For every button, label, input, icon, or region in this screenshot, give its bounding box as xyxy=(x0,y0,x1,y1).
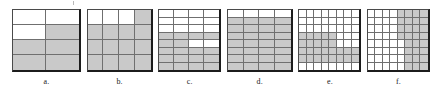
grid-cell xyxy=(299,33,307,41)
grid-cell xyxy=(103,10,119,25)
grid-cell xyxy=(368,25,376,33)
grid-cell xyxy=(174,18,189,26)
grid-cell xyxy=(299,55,307,63)
grid-box-a xyxy=(12,9,81,72)
grid-cell xyxy=(174,40,189,48)
grid-cell xyxy=(420,10,428,18)
grid-cell xyxy=(314,25,322,33)
grid-cell xyxy=(344,18,352,26)
grid-cell xyxy=(344,33,352,41)
grid-cell xyxy=(189,33,204,41)
grid-label-e: e. xyxy=(327,77,333,87)
grid-cell xyxy=(398,48,406,56)
grid-cell xyxy=(352,48,360,56)
grid-cell xyxy=(103,40,119,55)
grid-cell xyxy=(314,55,322,63)
grid-cell xyxy=(383,10,391,18)
grid-cell xyxy=(420,40,428,48)
grid-cell xyxy=(189,18,204,26)
grid-cell xyxy=(344,25,352,33)
grid-cell xyxy=(307,25,315,33)
grid-cell xyxy=(322,18,330,26)
grid-cell xyxy=(307,10,315,18)
grid-cell xyxy=(398,10,406,18)
grid-cell xyxy=(204,25,219,33)
grid-cell xyxy=(189,55,204,63)
grid-cell xyxy=(375,40,383,48)
grid-cells-e xyxy=(299,10,359,70)
grid-cell xyxy=(259,48,275,56)
grid-label-c: c. xyxy=(187,77,193,87)
grid-cells-a xyxy=(13,10,79,70)
grid-cell xyxy=(204,18,219,26)
grid-cell xyxy=(299,10,307,18)
grid-cell xyxy=(259,18,275,26)
grid-cell xyxy=(189,63,204,71)
grid-model-f: f. xyxy=(367,9,430,87)
grid-cell xyxy=(228,40,244,48)
grid-cell xyxy=(244,55,260,63)
grid-cell xyxy=(375,10,383,18)
grid-model-e: e. xyxy=(298,9,361,87)
grid-cell xyxy=(299,40,307,48)
grid-cell xyxy=(368,63,376,71)
grid-cell xyxy=(405,40,413,48)
grid-cell xyxy=(375,55,383,63)
grid-cell xyxy=(204,10,219,18)
grid-cell xyxy=(413,18,421,26)
grid-cell xyxy=(398,33,406,41)
grid-label-f: f. xyxy=(396,77,401,87)
grid-cells-d xyxy=(228,10,291,70)
grid-cell xyxy=(103,25,119,40)
grid-cell xyxy=(337,63,345,71)
grid-cell xyxy=(228,55,244,63)
grid-cell xyxy=(275,63,291,71)
grid-cell xyxy=(420,18,428,26)
grid-cell xyxy=(46,40,79,55)
grid-cell xyxy=(398,55,406,63)
grid-cell xyxy=(420,55,428,63)
grid-cell xyxy=(119,10,135,25)
grid-cell xyxy=(159,40,174,48)
grid-cell xyxy=(244,63,260,71)
grid-cell xyxy=(299,25,307,33)
grid-cell xyxy=(383,48,391,56)
grid-cell xyxy=(228,63,244,71)
grid-cell xyxy=(352,18,360,26)
grid-cell xyxy=(413,33,421,41)
grid-cell xyxy=(135,40,151,55)
grid-cell xyxy=(119,25,135,40)
grid-cell xyxy=(159,10,174,18)
grid-cell xyxy=(337,33,345,41)
grid-box-d xyxy=(227,9,293,72)
grid-cell xyxy=(375,33,383,41)
grid-cell xyxy=(420,33,428,41)
grid-cell xyxy=(413,10,421,18)
grid-cell xyxy=(307,40,315,48)
grid-cell xyxy=(375,18,383,26)
grid-cell xyxy=(13,40,46,55)
grid-cell xyxy=(344,63,352,71)
grid-cell xyxy=(159,25,174,33)
grid-cell xyxy=(368,18,376,26)
grid-cell xyxy=(390,33,398,41)
grid-box-f xyxy=(367,9,430,72)
grid-cell xyxy=(375,25,383,33)
grid-box-b xyxy=(87,9,153,72)
grid-cell xyxy=(314,10,322,18)
grid-cell xyxy=(344,48,352,56)
grid-cell xyxy=(174,48,189,56)
grid-cell xyxy=(275,10,291,18)
grid-cell xyxy=(244,10,260,18)
grid-cell xyxy=(405,18,413,26)
grid-cell xyxy=(322,48,330,56)
grid-cell xyxy=(383,55,391,63)
grid-cell xyxy=(228,48,244,56)
grid-cell xyxy=(383,25,391,33)
grid-cell xyxy=(46,10,79,25)
grid-cell xyxy=(413,40,421,48)
grid-cell xyxy=(174,63,189,71)
grid-cell xyxy=(275,18,291,26)
grid-cell xyxy=(329,48,337,56)
grid-cell xyxy=(352,63,360,71)
